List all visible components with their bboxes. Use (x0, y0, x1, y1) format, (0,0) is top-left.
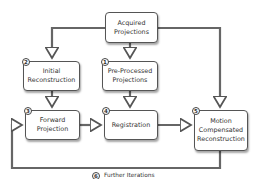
step-number-badge: 2 (22, 58, 30, 66)
node-acquired-projections: AcquiredProjections (105, 12, 158, 43)
node-forward-projection: ForwardProjection (25, 110, 80, 140)
node-label: Initial (28, 67, 76, 76)
node-label: Motion (197, 117, 245, 126)
node-label: Projections (114, 28, 149, 37)
node-initial-reconstruction: InitialReconstruction (23, 61, 80, 91)
node-motion-compensated-reconstruction: MotionCompensatedReconstruction (194, 110, 248, 151)
node-registration: Registration (104, 110, 158, 140)
loop-label: Further Iterations (104, 172, 154, 178)
node-label: Compensated (197, 126, 245, 135)
node-label: Projections (108, 76, 153, 85)
node-label: Reconstruction (197, 135, 245, 144)
node-preprocessed-projections: Pre-ProcessedProjections (102, 61, 158, 91)
node-label: Acquired (114, 19, 149, 28)
step-number-badge: 1 (101, 58, 109, 66)
step-number-badge: 6 (92, 172, 100, 179)
step-number-badge: 4 (102, 107, 110, 115)
node-label: Registration (112, 121, 151, 130)
node-label: Pre-Processed (108, 67, 153, 76)
step-number-badge: 3 (24, 107, 32, 115)
node-label: Projection (37, 125, 69, 134)
node-label: Reconstruction (28, 76, 76, 85)
node-label: Forward (37, 116, 69, 125)
step-number-badge: 5 (192, 107, 200, 115)
